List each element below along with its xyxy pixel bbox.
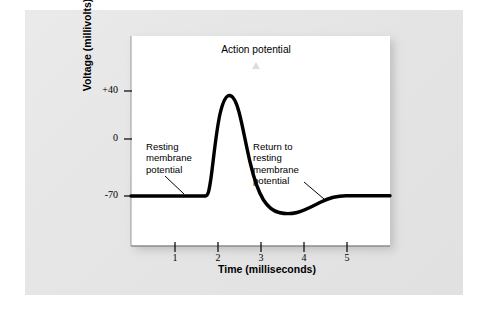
x-tick-label-4: 4 [294,253,314,263]
y-tick-label-0: 0 [88,133,118,143]
x-tick-label-2: 2 [208,253,228,263]
x-tick-label-5: 5 [337,253,357,263]
x-axis-title: Time (milliseconds) [212,264,322,275]
x-tick-marks [175,242,347,252]
return-leader-line [304,182,324,199]
x-tick-label-3: 3 [251,253,271,263]
annotation-return-to-resting-membrane-potential: Return to resting membrane potential [253,141,299,186]
y-tick-label-minus70: -70 [88,190,118,200]
resting-leader-line [165,176,184,194]
figure-root: Action potential [0,0,485,313]
annotation-resting-membrane-potential: Resting membrane potential [146,141,192,175]
y-axis-title: Voltage (millivolts) [82,0,93,98]
x-tick-label-1: 1 [165,253,185,263]
